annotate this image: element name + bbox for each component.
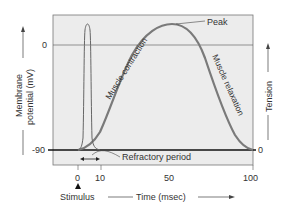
y-tick-neg90: -90 <box>32 145 45 155</box>
y-tick-0: 0 <box>42 40 47 50</box>
left-axis-label-2: potential (mV) <box>25 69 35 125</box>
twitch-diagram: Peak Muscle contraction Muscle relaxatio… <box>0 0 283 217</box>
right-tick-0: 0 <box>258 145 263 155</box>
x-label-10: 10 <box>95 173 105 183</box>
plot-area <box>53 15 253 165</box>
x-axis-label: Time (msec) <box>136 192 186 202</box>
x-label-50: 50 <box>164 173 174 183</box>
peak-label: Peak <box>207 17 228 27</box>
stimulus-marker-icon <box>75 183 81 189</box>
left-axis-label-1: Membrane <box>14 74 24 117</box>
stimulus-label: Stimulus <box>60 192 95 202</box>
time-arrow-head <box>229 195 235 199</box>
right-axis-label: Tension <box>264 81 274 112</box>
refractory-label: Refractory period <box>122 152 191 162</box>
x-label-100: 100 <box>243 173 258 183</box>
x-label-0: 0 <box>75 173 80 183</box>
left-axis-arrow-head <box>21 26 25 32</box>
right-axis-arrow-head <box>266 43 270 49</box>
